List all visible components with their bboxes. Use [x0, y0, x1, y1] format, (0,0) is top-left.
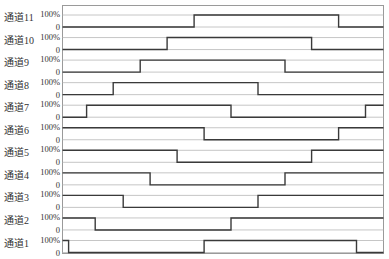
- high-level-label: 100%: [40, 99, 60, 109]
- channel-label: 通道8: [4, 79, 29, 91]
- high-level-label: 100%: [40, 32, 60, 42]
- waveform: [63, 128, 384, 140]
- low-level-label: 0: [56, 90, 60, 100]
- high-level-label: 100%: [40, 9, 60, 19]
- waveform: [63, 38, 384, 50]
- channel-label: 通道11: [4, 11, 34, 23]
- low-level-label: 0: [56, 67, 60, 77]
- channel-label: 通道7: [4, 101, 29, 113]
- channel-row: 通道7100%0: [4, 99, 384, 122]
- high-level-label: 100%: [40, 235, 60, 245]
- channel-label: 通道9: [4, 56, 29, 68]
- channel-label: 通道10: [4, 34, 34, 46]
- plot-frame: [63, 6, 384, 254]
- low-level-label: 0: [56, 202, 60, 212]
- channel-row: 通道5100%0: [4, 144, 384, 167]
- channel-row: 通道1100%0: [4, 235, 384, 258]
- waveform: [63, 241, 384, 253]
- waveform: [63, 83, 384, 95]
- waveform: [63, 195, 384, 207]
- channel-row: 通道8100%0: [4, 77, 384, 100]
- waveform: [63, 150, 384, 162]
- channel-label: 通道3: [4, 191, 29, 203]
- channel-label: 通道5: [4, 146, 29, 158]
- channel-label: 通道4: [4, 169, 29, 181]
- waveform: [63, 15, 384, 27]
- channel-row: 通道4100%0: [4, 167, 384, 190]
- channel-row: 通道11100%0: [4, 9, 384, 32]
- waveform: [63, 105, 384, 117]
- channel-row: 通道9100%0: [4, 54, 384, 77]
- timing-diagram: 通道11100%0通道10100%0通道9100%0通道8100%0通道7100…: [0, 0, 389, 259]
- channel-row: 通道3100%0: [4, 189, 384, 212]
- low-level-label: 0: [56, 225, 60, 235]
- high-level-label: 100%: [40, 54, 60, 64]
- channel-row: 通道10100%0: [4, 32, 384, 55]
- high-level-label: 100%: [40, 167, 60, 177]
- high-level-label: 100%: [40, 144, 60, 154]
- channel-label: 通道2: [4, 214, 29, 226]
- waveform: [63, 60, 384, 72]
- high-level-label: 100%: [40, 189, 60, 199]
- channel-row: 通道6100%0: [4, 122, 384, 145]
- channel-rows: 通道11100%0通道10100%0通道9100%0通道8100%0通道7100…: [4, 9, 384, 258]
- high-level-label: 100%: [40, 122, 60, 132]
- channel-row: 通道2100%0: [4, 212, 384, 235]
- high-level-label: 100%: [40, 77, 60, 87]
- low-level-label: 0: [56, 248, 60, 258]
- channel-label: 通道6: [4, 124, 29, 136]
- low-level-label: 0: [56, 135, 60, 145]
- low-level-label: 0: [56, 22, 60, 32]
- low-level-label: 0: [56, 180, 60, 190]
- low-level-label: 0: [56, 157, 60, 167]
- low-level-label: 0: [56, 45, 60, 55]
- channel-label: 通道1: [4, 237, 29, 249]
- waveform: [63, 173, 384, 185]
- low-level-label: 0: [56, 112, 60, 122]
- high-level-label: 100%: [40, 212, 60, 222]
- waveform: [63, 218, 384, 230]
